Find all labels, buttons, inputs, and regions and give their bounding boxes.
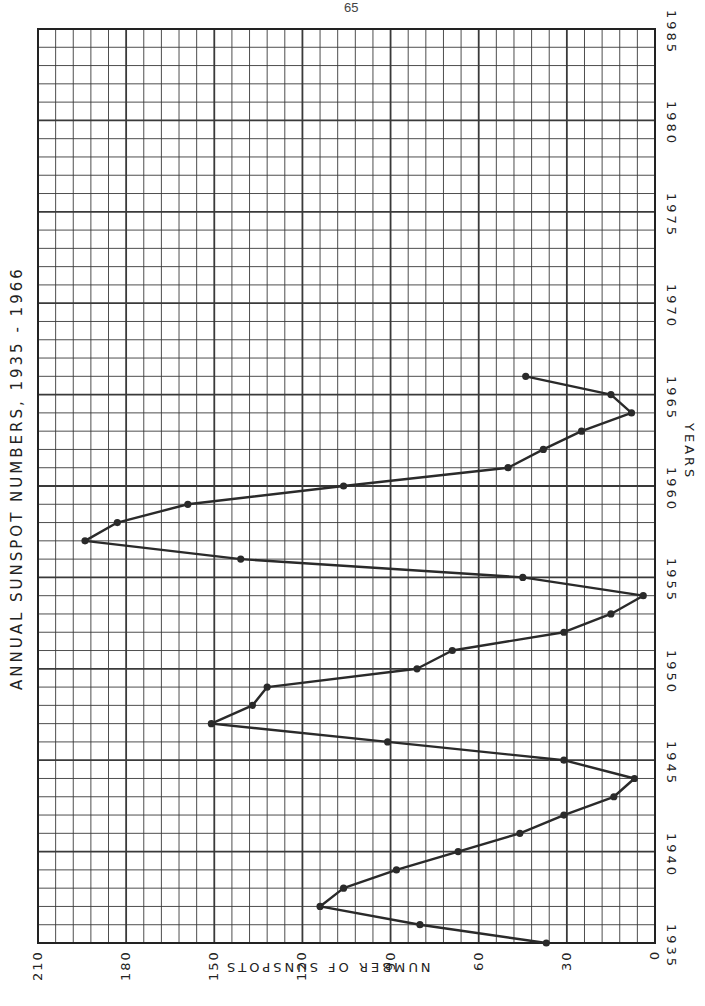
chart-series-line (81, 373, 646, 947)
data-point-marker (249, 702, 256, 709)
data-point-marker (628, 409, 635, 416)
data-point-marker (264, 683, 271, 690)
year-tick-label: 1945 (664, 741, 679, 786)
data-point-marker (504, 464, 511, 471)
data-point-marker (607, 610, 614, 617)
data-point-marker (540, 446, 547, 453)
data-point-marker (416, 921, 423, 928)
data-point-marker (340, 482, 347, 489)
data-point-marker (560, 811, 567, 818)
data-point-marker (516, 830, 523, 837)
year-tick-label: 1960 (664, 467, 679, 512)
data-point-marker (560, 629, 567, 636)
data-point-marker (560, 757, 567, 764)
year-tick-label: 1935 (664, 924, 679, 969)
year-tick-label: 1970 (664, 284, 679, 329)
data-point-marker (607, 391, 614, 398)
data-point-marker (384, 738, 391, 745)
data-point-marker (413, 665, 420, 672)
data-point-marker (316, 903, 323, 910)
sunspot-tick-label: 180 (118, 950, 133, 981)
data-point-marker (640, 592, 647, 599)
data-point-marker (522, 373, 529, 380)
year-tick-label: 1940 (664, 833, 679, 878)
sunspot-line (85, 376, 643, 943)
sunspot-tick-label: 60 (471, 950, 486, 971)
x-axis-title-years: YEARS (682, 423, 697, 480)
year-tick-label: 1950 (664, 650, 679, 695)
chart-title: ANNUAL SUNSPOT NUMBERS, 1935 - 1966 (8, 266, 26, 690)
data-point-marker (631, 775, 638, 782)
year-tick-label: 1975 (664, 193, 679, 238)
data-point-marker (543, 939, 550, 946)
sunspot-tick-label: 30 (559, 950, 574, 971)
sunspot-tick-label: 150 (206, 950, 221, 981)
year-tick-label: 1965 (664, 376, 679, 421)
data-point-marker (519, 574, 526, 581)
data-point-marker (208, 720, 215, 727)
data-point-marker (578, 428, 585, 435)
data-point-marker (610, 793, 617, 800)
y-axis-title-sunspots: NUMBER OF SUNSPOTS (224, 960, 431, 975)
data-point-marker (114, 519, 121, 526)
year-tick-label: 1980 (664, 101, 679, 146)
data-point-marker (455, 848, 462, 855)
year-tick-label: 1985 (664, 10, 679, 55)
data-point-marker (237, 556, 244, 563)
sunspot-tick-label: 210 (30, 950, 45, 981)
sunspot-tick-label: 0 (647, 950, 662, 960)
data-point-marker (393, 866, 400, 873)
data-point-marker (81, 537, 88, 544)
year-tick-label: 1955 (664, 558, 679, 603)
sunspot-chart (0, 0, 705, 1006)
data-point-marker (184, 501, 191, 508)
data-point-marker (340, 885, 347, 892)
data-point-marker (449, 647, 456, 654)
